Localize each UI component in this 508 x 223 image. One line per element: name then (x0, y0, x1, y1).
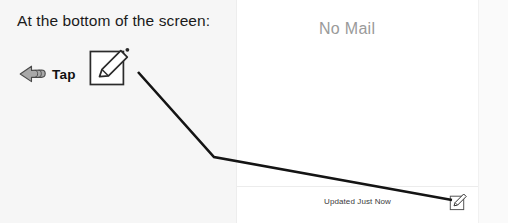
tap-action-label: Tap (52, 67, 76, 82)
instruction-heading: At the bottom of the screen: (17, 11, 210, 30)
toolbar-divider (237, 186, 478, 187)
toolbar-status-text: Updated Just Now (237, 197, 478, 206)
compose-icon[interactable] (89, 44, 131, 88)
screenshot-root: At the bottom of the screen: Tap No Mail (0, 0, 508, 223)
instruction-panel: At the bottom of the screen: Tap (0, 0, 236, 223)
empty-state-label: No Mail (319, 20, 375, 38)
outer-right-margin (479, 0, 508, 223)
compose-icon[interactable] (449, 192, 468, 211)
pointing-hand-icon (16, 64, 46, 84)
device-screen-panel: No Mail Updated Just Now (236, 0, 479, 223)
